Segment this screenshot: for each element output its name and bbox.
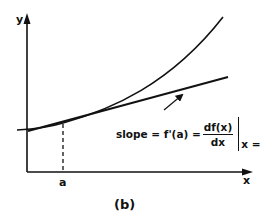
tick-label-a: a	[59, 177, 66, 188]
figure-caption: (b)	[114, 198, 135, 211]
slope-formula: slope = f'(a) = df(x) dx x = a	[116, 117, 263, 151]
evaluation-bar	[238, 117, 239, 151]
x-axis-label: x	[243, 175, 250, 186]
fraction-numerator: df(x)	[203, 121, 233, 135]
pointer-arrow	[164, 95, 182, 110]
y-axis-label: y	[16, 14, 23, 25]
formula-lhs: slope = f'(a) =	[116, 128, 201, 140]
evaluation-point: x = a	[241, 138, 263, 150]
derivative-fraction: df(x) dx	[203, 121, 233, 148]
fraction-denominator: dx	[211, 135, 225, 148]
diagram-canvas	[0, 0, 263, 221]
y-axis-arrow-icon	[24, 13, 31, 24]
function-curve	[17, 17, 223, 130]
